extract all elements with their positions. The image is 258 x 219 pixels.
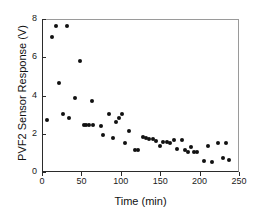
data-point [154, 139, 158, 143]
data-points-layer [43, 20, 238, 171]
x-axis-tick-label: 200 [185, 177, 215, 186]
data-point [78, 59, 82, 63]
plot-area [42, 19, 239, 172]
data-point [227, 158, 231, 162]
data-point [221, 156, 225, 160]
data-point [158, 144, 162, 148]
data-point [206, 144, 210, 148]
data-point [186, 150, 190, 154]
x-axis-tick-label: 100 [106, 177, 136, 186]
data-point [57, 81, 61, 85]
y-axis-tick-label: 0 [19, 167, 37, 176]
data-point [216, 141, 220, 145]
data-point [172, 138, 176, 142]
data-point [101, 133, 105, 137]
y-axis-tick [42, 134, 46, 135]
data-point [224, 141, 228, 145]
data-point [117, 116, 121, 120]
y-axis-tick [42, 19, 46, 20]
data-point [54, 24, 58, 28]
scatter-plot-figure: PVF2 Sensor Response (V) Time (min) 0246… [0, 0, 258, 219]
x-axis-tick-label: 250 [224, 177, 254, 186]
data-point [210, 160, 214, 164]
y-axis-tick-label: 4 [19, 91, 37, 100]
data-point [189, 145, 193, 149]
data-point [45, 118, 49, 122]
x-axis-label: Time (min) [42, 195, 239, 207]
data-point [114, 120, 118, 124]
x-axis-tick-label: 150 [145, 177, 175, 186]
data-point [73, 96, 77, 100]
data-point [127, 129, 131, 133]
data-point [202, 159, 206, 163]
data-point [61, 112, 65, 116]
y-axis-tick-label: 2 [19, 129, 37, 138]
y-axis-tick [42, 57, 46, 58]
data-point [120, 112, 124, 116]
data-point [107, 112, 111, 116]
data-point [168, 141, 172, 145]
data-point [111, 136, 115, 140]
data-point [90, 99, 94, 103]
data-point [175, 147, 179, 151]
y-axis-tick-label: 6 [19, 52, 37, 61]
data-point [136, 148, 140, 152]
x-axis-tick-label: 0 [27, 177, 57, 186]
x-axis-tick-label: 50 [66, 177, 96, 186]
data-point [67, 116, 71, 120]
data-point [50, 35, 54, 39]
data-point [91, 123, 95, 127]
y-axis-tick-label: 8 [19, 14, 37, 23]
data-point [123, 141, 127, 145]
data-point [195, 150, 199, 154]
data-point [180, 138, 184, 142]
y-axis-tick [42, 96, 46, 97]
data-point [99, 124, 103, 128]
data-point [65, 24, 69, 28]
